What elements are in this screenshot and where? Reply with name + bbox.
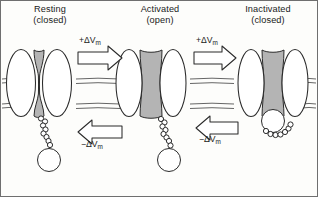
arrow-right-depolarize-2 [194, 46, 236, 70]
channel-resting [7, 50, 72, 118]
figure-graphics: .stroke { fill:none; stroke:#2b2b2b; str… [0, 0, 318, 197]
transition-symbol: ΔV [204, 134, 215, 144]
ball-and-chain-activated [158, 116, 181, 171]
transition-symbol: ΔV [84, 35, 95, 45]
inactivation-ball-resting [38, 149, 61, 172]
subunit-right-resting [43, 50, 72, 117]
panel-state-label-inactivated: Inactivated [224, 4, 312, 15]
transition-subscript: m [216, 138, 221, 145]
transition-symbol: ΔV [201, 35, 212, 45]
subunit-right-activated [160, 50, 186, 117]
transition-subscript: m [96, 39, 101, 46]
panel-title-activated: Activated (open) [118, 4, 202, 26]
transition-subscript: m [213, 39, 218, 46]
subunit-right-inactivated [282, 50, 308, 117]
panel-paren-label-activated: (open) [118, 15, 202, 26]
panel-title-inactivated: Inactivated (closed) [224, 4, 312, 26]
transition-symbol: ΔV [86, 139, 97, 149]
pore-activated [140, 50, 162, 118]
subunit-left-inactivated [238, 50, 264, 117]
membrane-segment-mid-right [190, 78, 234, 108]
pore-inactivated [262, 50, 284, 118]
channel-inactivated [238, 50, 308, 133]
channel-activated [116, 50, 186, 119]
panel-title-resting: Resting (closed) [8, 4, 92, 26]
transition-label-resting-to-activated: +ΔVm [79, 35, 101, 45]
subunit-left-resting [7, 50, 36, 117]
transition-label-inactivated-to-activated: −ΔVm [199, 134, 221, 144]
transition-label-activated-to-inactivated: +ΔVm [196, 35, 218, 45]
membrane-segment-mid-left [76, 78, 120, 108]
arrow-right-depolarize-1 [78, 46, 122, 70]
panel-state-label-resting: Resting [8, 4, 92, 15]
ion-channel-gating-figure: .stroke { fill:none; stroke:#2b2b2b; str… [0, 0, 318, 197]
panel-paren-label-inactivated: (closed) [224, 15, 312, 26]
transition-subscript: m [98, 143, 103, 150]
panel-state-label-activated: Activated [118, 4, 202, 15]
panel-paren-label-resting: (closed) [8, 15, 92, 26]
ball-and-chain-resting [38, 116, 61, 172]
transition-label-activated-to-resting: −ΔVm [81, 139, 103, 149]
inactivation-ball-activated [158, 149, 181, 172]
